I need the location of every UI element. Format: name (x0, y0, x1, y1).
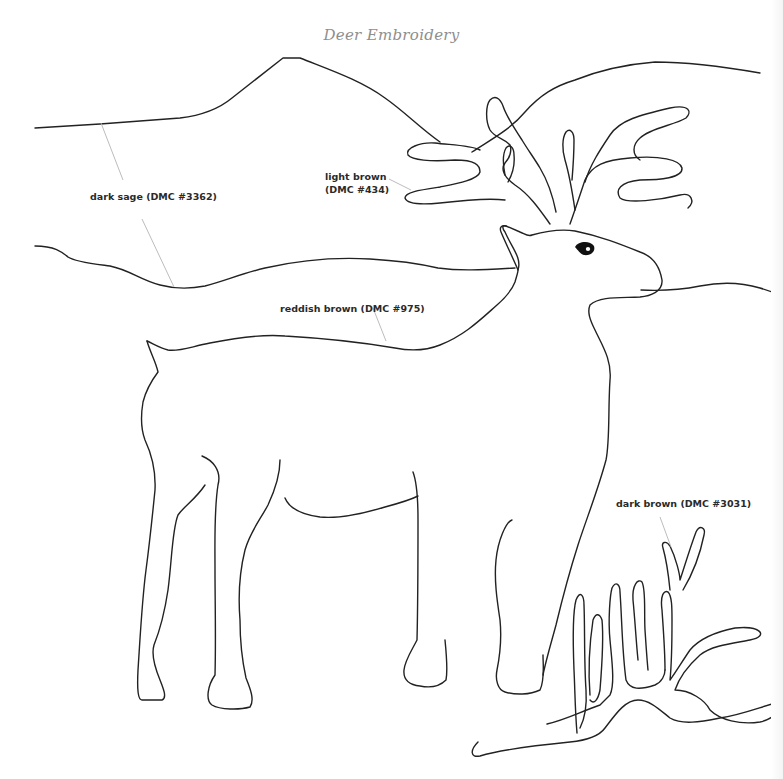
deer-eye-icon (575, 242, 594, 255)
deer-front-leg-outline (404, 472, 447, 687)
label-light-brown-line2: (DMC #434) (325, 183, 389, 196)
deer-body-outline (147, 226, 662, 675)
antler-right-inner-outline (563, 130, 575, 210)
antler-right-outer-outline (585, 107, 689, 182)
leader-line-light-brown (389, 179, 411, 190)
label-light-brown-line1: light brown (325, 170, 389, 183)
deer-second-hind-leg-outline (202, 456, 280, 709)
label-dark-brown-text: dark brown (DMC #3031) (616, 498, 751, 509)
page-title: Deer Embroidery (0, 26, 783, 44)
label-dark-sage-text: dark sage (DMC #3362) (90, 191, 217, 202)
deer-rump-hind-leg-outline (138, 341, 205, 700)
deer-ear-outline (500, 226, 518, 270)
label-dark-sage: dark sage (DMC #3362) (90, 190, 217, 203)
label-reddish-brown: reddish brown (DMC #975) (280, 302, 425, 315)
deer-second-front-leg-outline (495, 520, 543, 694)
pattern-drawing (0, 0, 783, 779)
antler-left-tines-outline (405, 143, 505, 204)
mountain-back-right-outline (472, 62, 760, 152)
branch-base-outline (472, 700, 780, 756)
leader-line-dark-sage-upper (101, 123, 123, 180)
branch-spikes-outline (573, 528, 704, 733)
mountain-back-outline (35, 58, 440, 142)
branch-right-outline (661, 592, 778, 723)
page-edge-shadow (771, 0, 783, 779)
antler-right-outline (570, 157, 692, 224)
hill-front-left-outline (35, 246, 515, 288)
embroidery-pattern-canvas (0, 0, 783, 779)
label-dark-brown: dark brown (DMC #3031) (616, 497, 751, 510)
deer-belly-outline (285, 496, 418, 517)
label-reddish-brown-text: reddish brown (DMC #975) (280, 303, 425, 314)
leader-line-dark-sage-lower (142, 219, 174, 287)
label-light-brown: light brown (DMC #434) (325, 170, 389, 196)
